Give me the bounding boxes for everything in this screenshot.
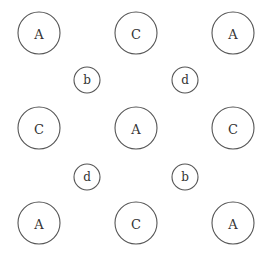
large-node: A bbox=[115, 107, 157, 149]
small-node: d bbox=[74, 164, 100, 190]
large-node: A bbox=[212, 12, 254, 54]
node-label: C bbox=[228, 122, 238, 137]
node-label: A bbox=[227, 27, 238, 42]
large-node: A bbox=[18, 12, 60, 54]
small-node: b bbox=[74, 67, 100, 93]
node-label: A bbox=[33, 27, 44, 42]
large-node: C bbox=[115, 202, 157, 244]
large-node: C bbox=[212, 107, 254, 149]
lattice-diagram: A C A C A C A C A b d d bbox=[0, 0, 266, 258]
node-label: d bbox=[181, 73, 189, 87]
large-node: A bbox=[18, 202, 60, 244]
large-node: C bbox=[115, 12, 157, 54]
node-label: d bbox=[83, 170, 91, 184]
large-node: C bbox=[18, 107, 60, 149]
node-label: A bbox=[130, 122, 141, 137]
small-node: b bbox=[172, 164, 198, 190]
node-label: A bbox=[33, 217, 44, 232]
small-node: d bbox=[172, 67, 198, 93]
node-label: b bbox=[181, 170, 189, 184]
node-label: C bbox=[131, 27, 141, 42]
node-label: C bbox=[34, 122, 44, 137]
node-label: b bbox=[83, 73, 91, 87]
node-label: C bbox=[131, 217, 141, 232]
large-node: A bbox=[212, 202, 254, 244]
node-label: A bbox=[227, 217, 238, 232]
